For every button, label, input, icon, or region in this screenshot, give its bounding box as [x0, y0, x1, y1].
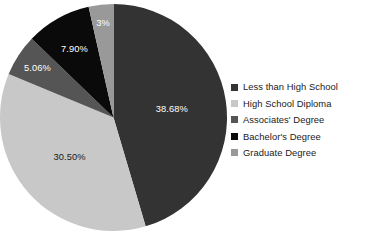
legend-swatch-icon: [231, 100, 238, 107]
legend-item-bachelors-degree[interactable]: Bachelor's Degree: [231, 128, 364, 144]
pie-slice-group: [0, 4, 227, 231]
legend-item-label: High School Diploma: [243, 99, 332, 108]
legend-swatch-icon: [231, 84, 238, 91]
pie-data-label: 7.90%: [61, 44, 88, 54]
legend-item-associates-degree[interactable]: Associates' Degree: [231, 112, 364, 128]
legend-item-less-than-high-school[interactable]: Less than High School: [231, 79, 364, 95]
chart-legend: Less than High School High School Diplom…: [231, 79, 364, 161]
legend-swatch-icon: [231, 133, 238, 140]
legend-item-label: Graduate Degree: [243, 148, 316, 157]
pie-data-label: 3%: [96, 18, 110, 28]
pie-chart-figure: 38.68%30.50%5.06%7.90%3% Less than High …: [0, 0, 366, 231]
pie-data-label: 30.50%: [54, 152, 86, 162]
pie-data-label: 5.06%: [24, 63, 51, 73]
legend-item-label: Less than High School: [243, 82, 338, 91]
pie-svg: 38.68%30.50%5.06%7.90%3%: [0, 0, 228, 231]
legend-item-high-school-diploma[interactable]: High School Diploma: [231, 95, 364, 111]
legend-item-graduate-degree[interactable]: Graduate Degree: [231, 145, 364, 161]
pie-plot-area: 38.68%30.50%5.06%7.90%3%: [0, 0, 228, 231]
legend-item-label: Bachelor's Degree: [243, 132, 321, 141]
legend-item-label: Associates' Degree: [243, 115, 324, 124]
legend-swatch-icon: [231, 116, 238, 123]
legend-swatch-icon: [231, 149, 238, 156]
pie-data-label: 38.68%: [156, 104, 188, 114]
